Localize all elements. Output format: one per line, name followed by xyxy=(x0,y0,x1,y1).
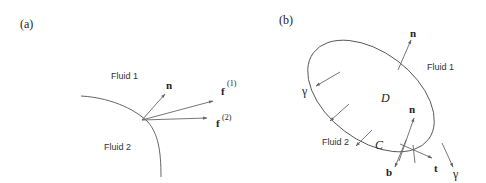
tangent-label: t xyxy=(434,162,438,174)
inner-normal-arrow xyxy=(399,118,414,161)
interface-curve xyxy=(81,96,161,177)
force2-superscript: (2) xyxy=(222,113,232,122)
fluid2-label-b: Fluid 2 xyxy=(322,137,349,147)
fluid2-label: Fluid 2 xyxy=(104,142,131,152)
gamma-left-label: γ xyxy=(301,84,308,98)
diagram-canvas: (a) Fluid 1 Fluid 2 n f (1) f (2) (b) Fl… xyxy=(0,0,486,183)
panel-b-label: (b) xyxy=(279,13,293,27)
binormal-label: b xyxy=(386,166,392,178)
surface-tension-arrow-1 xyxy=(330,104,349,121)
gamma-right-arrow xyxy=(442,143,453,167)
fluid1-label-b: Fluid 1 xyxy=(427,62,454,72)
top-normal-label: n xyxy=(410,27,416,39)
force1-vector-arrow xyxy=(142,101,213,120)
contour-label: C xyxy=(375,138,384,152)
top-normal-arrow xyxy=(398,40,411,70)
force1-label: f (1) xyxy=(221,79,237,97)
force1-superscript: (1) xyxy=(227,79,237,88)
domain-label: D xyxy=(380,91,390,105)
binormal-shaft xyxy=(413,145,415,163)
force1-symbol: f xyxy=(221,85,225,97)
force2-label: f (2) xyxy=(216,113,232,129)
panel-b: (b) Fluid 1 Fluid 2 D C n γ n b t γ xyxy=(279,13,459,181)
normal-vector-arrow xyxy=(142,94,165,120)
tangent-arrow xyxy=(400,144,432,158)
panel-a-label: (a) xyxy=(20,17,33,31)
force2-vector-arrow xyxy=(142,118,207,120)
gamma-right-label: γ xyxy=(452,167,459,181)
panel-a: (a) Fluid 1 Fluid 2 n f (1) f (2) xyxy=(20,17,237,177)
gamma-left-arrow xyxy=(316,72,340,86)
fluid1-label: Fluid 1 xyxy=(111,71,138,81)
force2-symbol: f xyxy=(216,117,220,129)
inner-normal-label: n xyxy=(409,103,415,115)
normal-vector-label: n xyxy=(166,79,172,91)
contour-ellipse xyxy=(287,18,455,175)
